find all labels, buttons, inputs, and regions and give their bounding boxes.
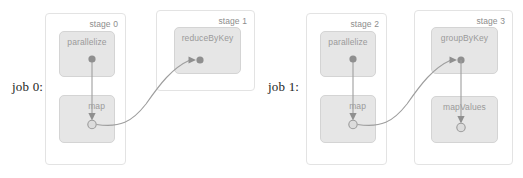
node-label-reducebykey-stage1: reduceByKey <box>175 33 240 43</box>
node-label-mapvalues-stage3: mapValues <box>432 102 497 112</box>
node-mapvalues-stage3[interactable]: mapValues <box>431 96 498 143</box>
node-groupbykey-stage3[interactable]: groupByKey <box>431 27 498 74</box>
stage-title-0: stage 0 <box>89 19 118 29</box>
stage-title-2: stage 2 <box>350 19 379 29</box>
node-reducebykey-stage1[interactable]: reduceByKey <box>174 27 241 74</box>
job-label-1: job 1: <box>268 79 299 95</box>
node-label-parallelize-stage2: parallelize <box>321 37 375 47</box>
node-parallelize-stage0[interactable]: parallelize <box>59 31 115 77</box>
node-map-stage2[interactable]: map <box>320 95 376 143</box>
node-map-stage0[interactable]: map <box>59 95 115 143</box>
stage-title-3: stage 3 <box>476 16 505 26</box>
stage-title-1: stage 1 <box>218 16 247 26</box>
node-label-groupbykey-stage3: groupByKey <box>432 33 497 43</box>
node-parallelize-stage2[interactable]: parallelize <box>320 31 376 77</box>
diagram-canvas: job 0: stage 0 parallelize map stage 1 r… <box>0 0 523 178</box>
job-label-0: job 0: <box>12 79 43 95</box>
node-label-parallelize-stage0: parallelize <box>60 37 114 47</box>
node-label-map-stage2: map <box>349 101 366 111</box>
node-label-map-stage0: map <box>88 101 105 111</box>
